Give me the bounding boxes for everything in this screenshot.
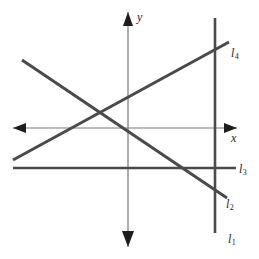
- y-axis-bottom-arrowhead: [122, 231, 134, 247]
- label-l4-letter: l: [231, 46, 234, 60]
- label-l2-subscript: 2: [230, 203, 234, 212]
- label-l3: l3: [239, 163, 246, 175]
- label-l2: l2: [226, 198, 233, 210]
- label-l3-letter: l: [239, 162, 242, 176]
- line-l2: [22, 60, 227, 198]
- figure-canvas: [0, 0, 259, 259]
- y-axis-top-arrowhead: [123, 12, 133, 26]
- x-axis-label: x: [231, 132, 236, 144]
- x-axis-left-arrowhead: [13, 123, 26, 133]
- geometry-figure: l4 l3 l2 l1 y x: [0, 0, 259, 259]
- lines-group: [13, 18, 236, 233]
- label-l2-letter: l: [226, 197, 229, 211]
- label-l4: l4: [231, 47, 238, 59]
- y-axis-label: y: [137, 11, 142, 23]
- label-l3-subscript: 3: [243, 168, 247, 177]
- label-l1-subscript: 1: [232, 238, 236, 247]
- label-l1-letter: l: [228, 232, 231, 246]
- label-l1: l1: [228, 233, 235, 245]
- line-l4: [13, 42, 229, 160]
- label-l4-subscript: 4: [235, 52, 239, 61]
